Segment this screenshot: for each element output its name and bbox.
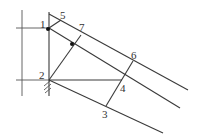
label-1: 1 bbox=[40, 18, 46, 30]
segment-1-5 bbox=[49, 20, 61, 28]
label-2: 2 bbox=[39, 69, 45, 81]
segment-2-7 bbox=[49, 35, 81, 80]
geometric-diagram: 1 2 3 4 5 6 7 bbox=[0, 0, 198, 138]
label-4: 4 bbox=[120, 82, 126, 94]
middle-parallel-line bbox=[49, 28, 180, 108]
label-3: 3 bbox=[102, 108, 108, 120]
top-parallel-line bbox=[49, 14, 188, 90]
label-7: 7 bbox=[79, 21, 85, 33]
label-5: 5 bbox=[60, 9, 66, 21]
bottom-parallel-line bbox=[49, 80, 163, 133]
point-marker-dot bbox=[70, 42, 74, 46]
label-6: 6 bbox=[131, 49, 137, 61]
point-1-dot bbox=[46, 27, 50, 31]
